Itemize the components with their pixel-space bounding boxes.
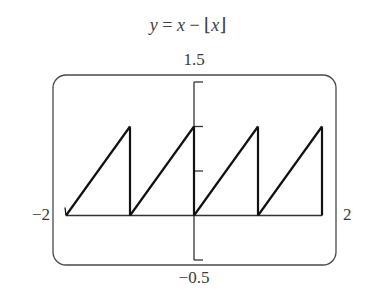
- ramp-segment: [194, 127, 258, 216]
- plot-area: [0, 0, 376, 307]
- ramp-segment: [130, 127, 194, 216]
- sawtooth-curve: [65, 127, 322, 216]
- ramp-segment: [258, 127, 322, 216]
- start-tail: [65, 208, 66, 216]
- ramp-segment: [66, 127, 130, 216]
